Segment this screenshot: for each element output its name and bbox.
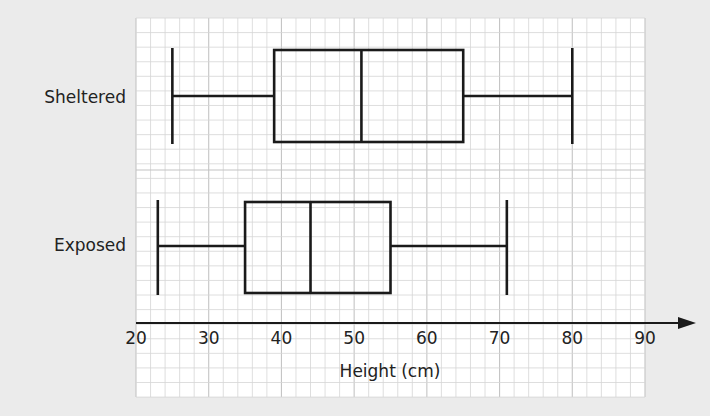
x-axis-title: Height (cm) xyxy=(340,361,441,381)
x-tick-label: 20 xyxy=(125,328,147,348)
x-tick-label: 30 xyxy=(198,328,220,348)
x-tick-label: 40 xyxy=(271,328,293,348)
x-tick-label: 80 xyxy=(561,328,583,348)
x-tick-label: 60 xyxy=(416,328,438,348)
category-label-exposed: Exposed xyxy=(54,235,126,255)
x-tick-label: 70 xyxy=(489,328,511,348)
category-label-sheltered: Sheltered xyxy=(44,87,126,107)
boxplot-chart: 2030405060708090 Sheltered Exposed Heigh… xyxy=(0,0,710,416)
x-tick-label: 50 xyxy=(343,328,365,348)
axis-arrow-icon xyxy=(678,317,696,329)
x-tick-label: 90 xyxy=(634,328,656,348)
